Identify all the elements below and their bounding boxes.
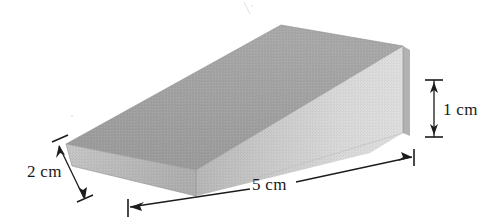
wedge-right-end-face <box>403 46 410 136</box>
dimension-arrow-1cm <box>425 80 443 137</box>
wedge-figure-canvas <box>0 0 482 224</box>
dimension-label-1cm: 1 cm <box>443 101 478 118</box>
wedge-solid <box>66 25 410 196</box>
dimension-label-5cm: 5 cm <box>252 176 287 193</box>
dimension-label-2cm: 2 cm <box>27 163 62 180</box>
wedge-figure: 1 cm 2 cm 5 cm <box>0 0 482 224</box>
